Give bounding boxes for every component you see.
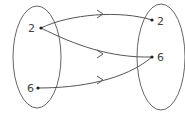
- domain-point-6: [36, 86, 39, 89]
- range-point-6: [150, 55, 153, 58]
- range-label-2: 2: [157, 15, 164, 28]
- domain-point-2: [39, 26, 42, 29]
- arrowhead-icon: [97, 76, 103, 84]
- domain-set-ellipse: [13, 6, 61, 108]
- arrowhead-icon: [97, 10, 103, 18]
- mapping-diagram-canvas: 2 6 2 6: [0, 0, 185, 119]
- domain-label-6: 6: [27, 82, 34, 95]
- domain-label-2: 2: [28, 22, 35, 35]
- range-label-6: 6: [157, 51, 164, 64]
- mapping-arrow-6-to-6: [38, 57, 152, 88]
- range-point-2: [150, 18, 153, 21]
- mapping-diagram: 2 6 2 6: [0, 0, 185, 119]
- mapping-arrow-2-to-2: [41, 14, 152, 28]
